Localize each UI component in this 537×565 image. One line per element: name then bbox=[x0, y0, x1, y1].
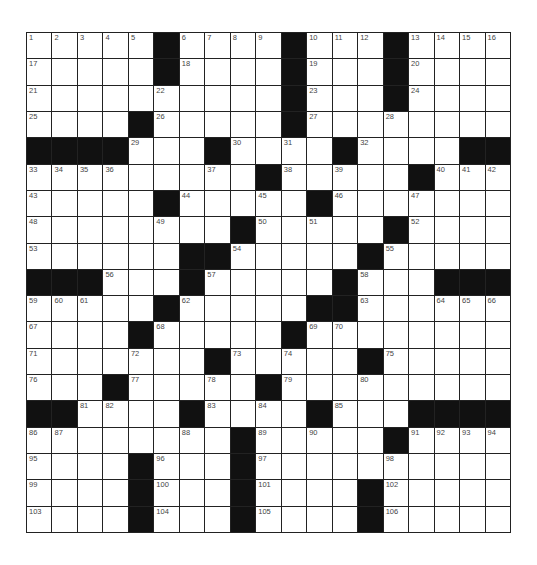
crossword-cell[interactable] bbox=[460, 86, 484, 111]
crossword-cell[interactable] bbox=[307, 375, 331, 400]
crossword-cell[interactable]: 24 bbox=[409, 86, 433, 111]
crossword-cell[interactable] bbox=[231, 191, 255, 216]
crossword-cell[interactable]: 38 bbox=[282, 165, 306, 190]
crossword-cell[interactable] bbox=[486, 454, 510, 479]
crossword-cell[interactable] bbox=[52, 59, 76, 84]
crossword-cell[interactable] bbox=[282, 270, 306, 295]
crossword-cell[interactable] bbox=[384, 375, 408, 400]
crossword-cell[interactable] bbox=[486, 322, 510, 347]
crossword-cell[interactable]: 63 bbox=[358, 296, 382, 321]
crossword-cell[interactable] bbox=[384, 138, 408, 163]
crossword-cell[interactable] bbox=[180, 375, 204, 400]
crossword-cell[interactable] bbox=[256, 138, 280, 163]
crossword-cell[interactable]: 51 bbox=[307, 217, 331, 242]
crossword-cell[interactable]: 81 bbox=[78, 401, 102, 426]
crossword-cell[interactable] bbox=[409, 296, 433, 321]
crossword-cell[interactable] bbox=[307, 454, 331, 479]
crossword-cell[interactable] bbox=[78, 86, 102, 111]
crossword-cell[interactable] bbox=[154, 375, 178, 400]
crossword-cell[interactable]: 50 bbox=[256, 217, 280, 242]
crossword-cell[interactable]: 58 bbox=[358, 270, 382, 295]
crossword-cell[interactable] bbox=[129, 165, 153, 190]
crossword-cell[interactable]: 57 bbox=[205, 270, 229, 295]
crossword-cell[interactable] bbox=[409, 507, 433, 532]
crossword-cell[interactable] bbox=[103, 217, 127, 242]
crossword-cell[interactable] bbox=[435, 59, 459, 84]
crossword-cell[interactable] bbox=[282, 401, 306, 426]
crossword-cell[interactable] bbox=[486, 244, 510, 269]
crossword-cell[interactable]: 103 bbox=[27, 507, 51, 532]
crossword-cell[interactable]: 79 bbox=[282, 375, 306, 400]
crossword-cell[interactable]: 70 bbox=[333, 322, 357, 347]
crossword-cell[interactable]: 76 bbox=[27, 375, 51, 400]
crossword-cell[interactable] bbox=[78, 217, 102, 242]
crossword-cell[interactable]: 48 bbox=[27, 217, 51, 242]
crossword-cell[interactable]: 104 bbox=[154, 507, 178, 532]
crossword-cell[interactable] bbox=[409, 244, 433, 269]
crossword-cell[interactable] bbox=[282, 428, 306, 453]
crossword-cell[interactable] bbox=[129, 59, 153, 84]
crossword-cell[interactable]: 61 bbox=[78, 296, 102, 321]
crossword-cell[interactable] bbox=[205, 59, 229, 84]
crossword-cell[interactable] bbox=[435, 112, 459, 137]
crossword-cell[interactable]: 40 bbox=[435, 165, 459, 190]
crossword-cell[interactable]: 35 bbox=[78, 165, 102, 190]
crossword-cell[interactable] bbox=[231, 112, 255, 137]
crossword-cell[interactable] bbox=[307, 270, 331, 295]
crossword-cell[interactable] bbox=[52, 217, 76, 242]
crossword-cell[interactable] bbox=[205, 112, 229, 137]
crossword-cell[interactable]: 41 bbox=[460, 165, 484, 190]
crossword-cell[interactable] bbox=[460, 507, 484, 532]
crossword-cell[interactable] bbox=[231, 165, 255, 190]
crossword-cell[interactable] bbox=[180, 454, 204, 479]
crossword-cell[interactable] bbox=[52, 507, 76, 532]
crossword-cell[interactable]: 2 bbox=[52, 33, 76, 58]
crossword-cell[interactable] bbox=[180, 507, 204, 532]
crossword-cell[interactable]: 7 bbox=[205, 33, 229, 58]
crossword-cell[interactable] bbox=[78, 507, 102, 532]
crossword-cell[interactable] bbox=[435, 454, 459, 479]
crossword-cell[interactable] bbox=[435, 217, 459, 242]
crossword-cell[interactable] bbox=[333, 507, 357, 532]
crossword-cell[interactable] bbox=[52, 86, 76, 111]
crossword-cell[interactable]: 10 bbox=[307, 33, 331, 58]
crossword-cell[interactable] bbox=[435, 480, 459, 505]
crossword-cell[interactable] bbox=[78, 112, 102, 137]
crossword-cell[interactable] bbox=[231, 322, 255, 347]
crossword-cell[interactable] bbox=[460, 217, 484, 242]
crossword-cell[interactable] bbox=[129, 428, 153, 453]
crossword-cell[interactable] bbox=[486, 59, 510, 84]
crossword-cell[interactable] bbox=[180, 86, 204, 111]
crossword-cell[interactable]: 98 bbox=[384, 454, 408, 479]
crossword-cell[interactable] bbox=[282, 191, 306, 216]
crossword-cell[interactable]: 16 bbox=[486, 33, 510, 58]
crossword-cell[interactable] bbox=[256, 349, 280, 374]
crossword-cell[interactable] bbox=[205, 86, 229, 111]
crossword-cell[interactable] bbox=[205, 217, 229, 242]
crossword-cell[interactable]: 42 bbox=[486, 165, 510, 190]
crossword-cell[interactable] bbox=[78, 454, 102, 479]
crossword-cell[interactable]: 5 bbox=[129, 33, 153, 58]
crossword-cell[interactable]: 43 bbox=[27, 191, 51, 216]
crossword-cell[interactable] bbox=[384, 322, 408, 347]
crossword-cell[interactable]: 84 bbox=[256, 401, 280, 426]
crossword-cell[interactable]: 102 bbox=[384, 480, 408, 505]
crossword-cell[interactable] bbox=[384, 401, 408, 426]
crossword-cell[interactable] bbox=[52, 480, 76, 505]
crossword-cell[interactable] bbox=[103, 322, 127, 347]
crossword-cell[interactable] bbox=[333, 349, 357, 374]
crossword-cell[interactable] bbox=[460, 375, 484, 400]
crossword-cell[interactable] bbox=[358, 217, 382, 242]
crossword-cell[interactable] bbox=[52, 244, 76, 269]
crossword-cell[interactable]: 23 bbox=[307, 86, 331, 111]
crossword-cell[interactable]: 52 bbox=[409, 217, 433, 242]
crossword-cell[interactable] bbox=[409, 138, 433, 163]
crossword-cell[interactable]: 15 bbox=[460, 33, 484, 58]
crossword-cell[interactable]: 31 bbox=[282, 138, 306, 163]
crossword-cell[interactable] bbox=[282, 454, 306, 479]
crossword-cell[interactable] bbox=[460, 454, 484, 479]
crossword-cell[interactable] bbox=[486, 349, 510, 374]
crossword-cell[interactable] bbox=[205, 191, 229, 216]
crossword-cell[interactable] bbox=[358, 59, 382, 84]
crossword-cell[interactable] bbox=[384, 270, 408, 295]
